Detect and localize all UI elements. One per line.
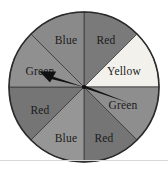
sector-label-blue-bottom-left: Blue: [55, 132, 78, 144]
bottom-rule: [0, 160, 168, 161]
needle-hub: [82, 85, 86, 89]
sector-label-red-bottom-right: Red: [94, 132, 113, 144]
sector-label-yellow-right-upper: Yellow: [107, 65, 141, 77]
sector-label-blue-top-left: Blue: [55, 34, 78, 46]
spinner-figure: Red Yellow Green Red Blue Red Green Blue: [0, 0, 168, 171]
spinner-wheel-graphic[interactable]: Red Yellow Green Red Blue Red Green Blue: [0, 0, 168, 171]
sector-label-green-right-lower: Green: [108, 99, 137, 111]
sector-label-red-left-lower: Red: [30, 104, 49, 116]
sector-label-red-top-right: Red: [96, 34, 115, 46]
